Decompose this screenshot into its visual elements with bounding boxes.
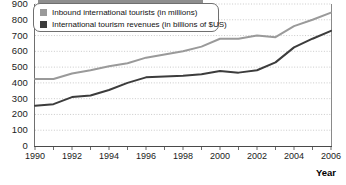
x-axis-tick-label: 1992 — [57, 152, 87, 161]
x-axis-tick-label: 1998 — [168, 152, 198, 161]
y-axis-tick-label: 200 — [0, 109, 28, 118]
legend-label-revenues: International tourism revenues (in billi… — [52, 21, 227, 29]
y-axis-tick-label: 700 — [0, 31, 28, 40]
series-line — [35, 31, 331, 106]
x-axis-tick-label: 1996 — [131, 152, 161, 161]
x-axis-tick-label: 2002 — [242, 152, 272, 161]
y-axis-tick-label: 0 — [0, 141, 28, 150]
y-axis-tick-label: 900 — [0, 0, 28, 8]
x-axis-tick-label: 1990 — [20, 152, 50, 161]
legend-item-revenues: International tourism revenues (in billi… — [38, 19, 214, 30]
x-axis-tick-label: 2006 — [316, 152, 346, 161]
legend-swatch-tourists — [40, 9, 47, 16]
y-axis-tick-label: 400 — [0, 78, 28, 87]
legend-item-tourists: Inbound international tourists (in milli… — [38, 7, 214, 18]
x-axis-tick-label: 2004 — [279, 152, 309, 161]
y-axis-tick-label: 500 — [0, 62, 28, 71]
legend-label-tourists: Inbound international tourists (in milli… — [52, 9, 197, 17]
legend-swatch-revenues — [40, 21, 47, 28]
y-axis-tick-label: 100 — [0, 125, 28, 134]
x-axis-tick-label: 1994 — [94, 152, 124, 161]
y-axis-tick-label: 600 — [0, 46, 28, 55]
x-axis-title: Year — [316, 168, 336, 178]
y-axis-tick-label: 800 — [0, 15, 28, 24]
chart-legend: Inbound international tourists (in milli… — [33, 3, 219, 32]
x-axis-tick-label: 2000 — [205, 152, 235, 161]
y-axis-tick-label: 300 — [0, 94, 28, 103]
